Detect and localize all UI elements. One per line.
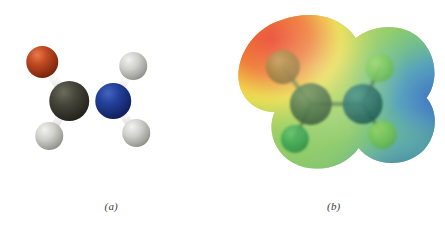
two-panel-molecule-figure: (a)	[0, 0, 445, 231]
panel-a-stage	[0, 0, 223, 195]
atom-hydrogen-amine-lower	[122, 119, 150, 147]
atom-hydrogen-formyl	[35, 122, 63, 150]
atom-group	[26, 46, 150, 150]
atom-nitrogen	[95, 83, 131, 119]
panel-a: (a)	[0, 0, 223, 231]
potential-surface	[223, 0, 445, 195]
panel-b-stage	[223, 0, 445, 195]
atom-oxygen	[26, 46, 58, 78]
ball-and-stick-model	[0, 0, 223, 195]
panel-b: (b)	[223, 0, 445, 231]
electrostatic-potential-map	[223, 0, 445, 195]
atom-carbon	[49, 81, 89, 121]
panel-b-label: (b)	[223, 200, 445, 212]
surface-shading-overlay	[223, 0, 445, 195]
panel-a-label: (a)	[0, 200, 223, 212]
atom-hydrogen-amine-upper	[119, 52, 147, 80]
